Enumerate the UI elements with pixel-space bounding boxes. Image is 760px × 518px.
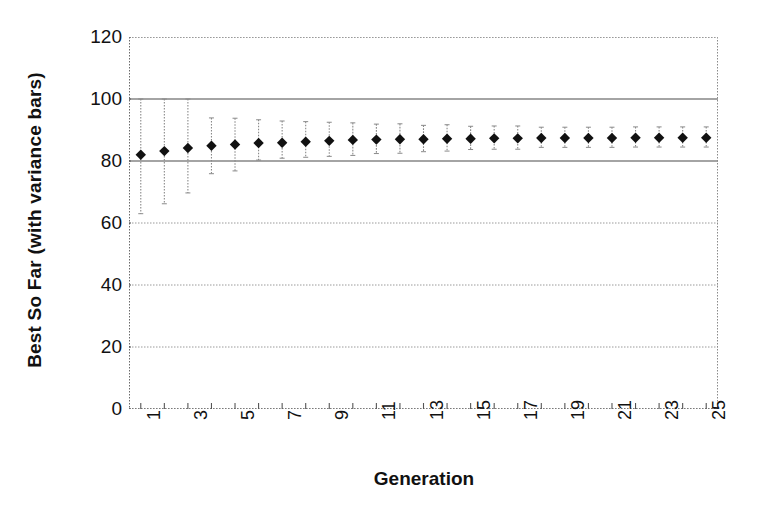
- data-point-marker: [277, 138, 287, 148]
- y-axis-tick-label: 100: [66, 89, 122, 108]
- x-axis-tick-label: 1: [147, 410, 161, 420]
- x-axis-tick-label: 13: [430, 400, 444, 420]
- data-point-marker: [206, 141, 216, 151]
- data-point-marker: [513, 133, 523, 143]
- data-point-marker: [536, 133, 546, 143]
- y-axis-tick-label: 0: [66, 399, 122, 418]
- error-bars: [138, 99, 708, 214]
- y-axis-tick-labels: 020406080100120: [62, 0, 122, 518]
- data-point-marker: [560, 133, 570, 143]
- y-axis-tick-label: 80: [66, 151, 122, 170]
- x-axis-tick-label: 11: [382, 401, 396, 420]
- x-axis-tick-label: 23: [665, 400, 679, 420]
- x-axis-tick-label: 7: [288, 410, 302, 420]
- y-axis-title: Best So Far (with variance bars): [18, 40, 52, 400]
- x-axis-tick-label: 21: [618, 400, 632, 420]
- data-point-marker: [489, 133, 499, 143]
- data-point-marker: [395, 134, 405, 144]
- data-point-marker: [607, 133, 617, 143]
- x-axis-tick-label: 15: [477, 400, 491, 420]
- plot-area: [129, 37, 718, 409]
- data-point-marker: [701, 133, 711, 143]
- x-axis-tick-label: 5: [241, 410, 255, 420]
- data-point-marker: [253, 138, 263, 148]
- x-axis-tick-labels: 135791113151719212325: [129, 418, 729, 466]
- x-axis-tick-label: 17: [524, 400, 538, 420]
- y-axis-tick-label: 60: [66, 213, 122, 232]
- data-point-marker: [159, 146, 169, 156]
- y-axis-tick-label: 40: [66, 275, 122, 294]
- x-axis-tick-label: 3: [194, 410, 208, 420]
- data-point-marker: [183, 143, 193, 153]
- data-point-marker: [465, 133, 475, 143]
- x-axis-title: Generation: [129, 468, 719, 490]
- plot-svg: [129, 37, 718, 409]
- x-axis-tick-label: 25: [712, 400, 726, 420]
- grid-lines: [129, 37, 718, 409]
- data-point-marker: [136, 150, 146, 160]
- y-axis-tick-label: 20: [66, 337, 122, 356]
- data-point-marker: [418, 134, 428, 144]
- data-point-marker: [324, 136, 334, 146]
- data-point-marker: [654, 133, 664, 143]
- data-point-marker: [230, 139, 240, 149]
- chart-figure: Best So Far (with variance bars) 0204060…: [0, 0, 760, 518]
- data-points: [136, 133, 712, 160]
- data-point-marker: [583, 133, 593, 143]
- data-point-marker: [442, 133, 452, 143]
- data-point-marker: [348, 135, 358, 145]
- x-axis-tick-label: 19: [571, 400, 585, 420]
- x-axis-tick-label: 9: [335, 410, 349, 420]
- data-point-marker: [371, 134, 381, 144]
- data-point-marker: [630, 133, 640, 143]
- data-point-marker: [677, 133, 687, 143]
- y-axis-tick-label: 120: [66, 27, 122, 46]
- data-point-marker: [301, 137, 311, 147]
